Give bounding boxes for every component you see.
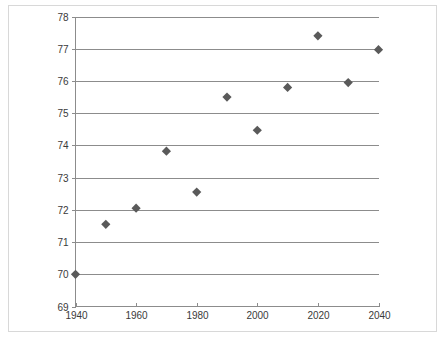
x-tick-label-2000: 2000 (246, 310, 269, 321)
y-tick-label-73: 73 (57, 173, 69, 184)
y-tick-label-75: 75 (57, 108, 69, 119)
data-point-1940 (71, 270, 80, 279)
x-tick-label-1980: 1980 (186, 310, 209, 321)
data-point-1990 (222, 92, 231, 101)
x-tick-label-2040: 2040 (368, 310, 391, 321)
chart-figure: 69707172737475767778 1940196019802000202… (0, 0, 445, 340)
data-point-2010 (283, 83, 292, 92)
gridlines-group (76, 18, 379, 275)
y-tick-label-74: 74 (57, 140, 69, 151)
data-point-2020 (313, 31, 322, 40)
data-point-1950 (101, 220, 110, 229)
y-tick-label-77: 77 (57, 44, 69, 55)
x-tick-labels-group: 194019601980200020202040 (65, 310, 391, 321)
data-point-2030 (344, 78, 353, 87)
tickmarks-group (72, 18, 380, 308)
x-tick-label-1940: 1940 (65, 310, 88, 321)
x-tick-label-2020: 2020 (307, 310, 330, 321)
data-point-2040 (374, 45, 383, 54)
data-point-1980 (192, 188, 201, 197)
y-tick-label-72: 72 (57, 205, 69, 216)
x-tick-label-1960: 1960 (125, 310, 148, 321)
axes-group (76, 17, 379, 307)
plot-area: 69707172737475767778 1940196019802000202… (0, 0, 445, 340)
y-tick-label-71: 71 (57, 237, 69, 248)
y-tick-label-78: 78 (57, 12, 69, 23)
data-point-1970 (162, 147, 171, 156)
data-point-1960 (132, 204, 141, 213)
data-markers-group (71, 31, 383, 279)
scatter-plot-svg: 69707172737475767778 1940196019802000202… (0, 0, 445, 340)
y-tick-labels-group: 69707172737475767778 (57, 12, 69, 313)
data-point-2000 (253, 126, 262, 135)
y-tick-label-70: 70 (57, 269, 69, 280)
y-tick-label-76: 76 (57, 76, 69, 87)
